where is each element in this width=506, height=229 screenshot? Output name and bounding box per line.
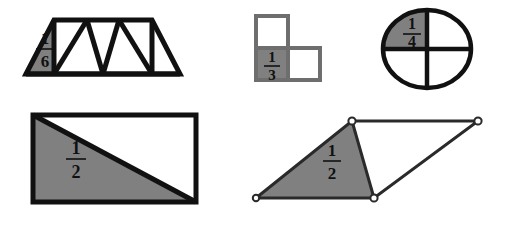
squares-svg: 1 3 bbox=[252, 12, 332, 90]
rectangle-svg: 1 2 bbox=[28, 110, 204, 210]
circle-svg: 1 4 bbox=[378, 5, 476, 93]
squares-fraction-numerator: 1 bbox=[268, 49, 276, 65]
figure-parallelogram: 1 2 bbox=[248, 112, 498, 216]
parallelogram-fraction-numerator: 1 bbox=[328, 141, 337, 160]
circle-fraction-denominator: 4 bbox=[408, 33, 416, 50]
square-empty-bottom-right bbox=[288, 48, 320, 80]
parallelogram-vertex-marker-left-bottom bbox=[253, 195, 259, 201]
trapezoid-fraction-numerator: 1 bbox=[41, 29, 50, 48]
rectangle-fraction-denominator: 2 bbox=[72, 162, 81, 182]
trapezoid-svg: 1 6 bbox=[20, 14, 192, 84]
trapezoid-fraction-denominator: 6 bbox=[41, 52, 50, 71]
figure-rectangle: 1 2 bbox=[28, 110, 204, 210]
parallelogram-vertex-marker-top-left bbox=[348, 117, 355, 124]
squares-fraction-denominator: 3 bbox=[268, 67, 276, 83]
trapezoid-divider-3 bbox=[87, 20, 103, 74]
circle-fraction-numerator: 1 bbox=[408, 15, 416, 32]
parallelogram-vertex-marker-bottom-right bbox=[370, 194, 377, 201]
parallelogram-vertex-marker-top-right bbox=[474, 117, 481, 124]
figure-squares: 1 3 bbox=[252, 12, 332, 90]
figure-circle: 1 4 bbox=[378, 5, 476, 93]
figure-trapezoid: 1 6 bbox=[20, 14, 192, 84]
square-empty-top-left bbox=[256, 16, 288, 48]
trapezoid-divider-5 bbox=[119, 20, 152, 74]
trapezoid-divider-2 bbox=[54, 20, 87, 74]
parallelogram-fraction-denominator: 2 bbox=[328, 164, 337, 183]
rectangle-fraction-numerator: 1 bbox=[72, 138, 81, 158]
trapezoid-divider-4 bbox=[103, 20, 119, 74]
parallelogram-svg: 1 2 bbox=[248, 112, 498, 216]
